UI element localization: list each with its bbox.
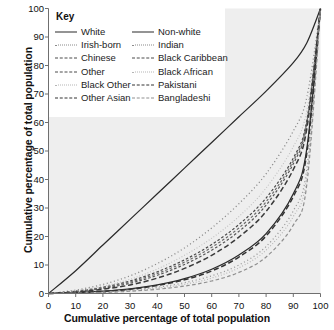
legend-item: White (55, 26, 132, 39)
legend-item-label: Pakistani (158, 80, 197, 90)
x-axis-title: Cumulative percentage of total populatio… (0, 312, 334, 324)
legend-line-swatch-icon (55, 66, 77, 77)
legend-item: Other Asian (55, 91, 132, 104)
x-tick-label: 70 (224, 301, 254, 311)
x-tick-label: 60 (197, 301, 227, 311)
legend-item-label: Other Asian (81, 93, 131, 103)
legend-title: Key (56, 12, 220, 23)
x-tick-label: 30 (115, 301, 145, 311)
x-tick-label: 100 (306, 301, 334, 311)
legend-item: Black Other (55, 78, 132, 91)
legend-item-label: Black Caribbean (158, 53, 228, 63)
legend-column-2: Non-whiteIndianBlack CaribbeanBlack Afri… (132, 26, 220, 105)
legend-item: Irish-born (55, 39, 132, 52)
x-tick-label: 20 (88, 301, 118, 311)
legend-item: Other (55, 65, 132, 78)
legend-item: Indian (132, 39, 220, 52)
legend-item-label: Irish-born (81, 40, 121, 50)
legend-line-swatch-icon (132, 79, 154, 90)
legend-item: Chinese (55, 52, 132, 65)
legend-line-swatch-icon (55, 27, 77, 38)
x-tick-label: 10 (61, 301, 91, 311)
legend-item: Pakistani (132, 78, 220, 91)
legend-item-label: Black African (158, 67, 213, 77)
x-tick-label: 50 (170, 301, 200, 311)
legend: Key WhiteIrish-bornChineseOtherBlack Oth… (49, 8, 225, 117)
legend-item: Black African (132, 65, 220, 78)
legend-item-label: Other (81, 67, 105, 77)
legend-item-label: Chinese (81, 53, 116, 63)
legend-line-swatch-icon (55, 79, 77, 90)
legend-item-label: Non-white (158, 27, 201, 37)
legend-item: Bangladeshi (132, 91, 220, 104)
legend-item-label: Indian (158, 40, 184, 50)
legend-item: Non-white (132, 26, 220, 39)
legend-line-swatch-icon (132, 93, 154, 104)
legend-line-swatch-icon (132, 27, 154, 38)
x-tick-label: 80 (251, 301, 281, 311)
legend-line-swatch-icon (55, 93, 77, 104)
x-tick-label: 90 (278, 301, 308, 311)
lorenz-chart: Cumulative percentage of total populatio… (0, 0, 334, 330)
x-tick-label: 0 (34, 301, 64, 311)
legend-item-label: Black Other (81, 80, 131, 90)
legend-line-swatch-icon (132, 40, 154, 51)
legend-line-swatch-icon (132, 53, 154, 64)
x-tick-label: 40 (142, 301, 172, 311)
legend-item-label: White (81, 27, 105, 37)
legend-line-swatch-icon (55, 53, 77, 64)
x-axis-tick-labels: 0102030405060708090100 (0, 296, 334, 312)
legend-column-1: WhiteIrish-bornChineseOtherBlack OtherOt… (55, 26, 132, 105)
legend-line-swatch-icon (132, 66, 154, 77)
legend-line-swatch-icon (55, 40, 77, 51)
legend-item-label: Bangladeshi (158, 93, 210, 103)
legend-item: Black Caribbean (132, 52, 220, 65)
